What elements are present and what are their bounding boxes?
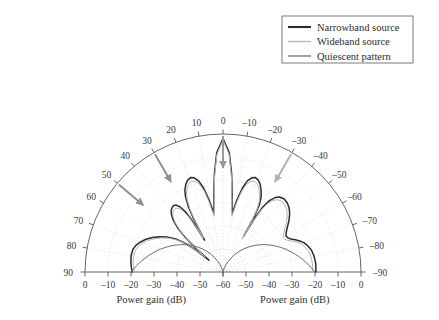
angle-tick-30 [152, 149, 154, 153]
angle-tick--70 [353, 223, 357, 225]
angle-tick-20 [174, 138, 176, 142]
angle-label--60: –60 [347, 192, 363, 202]
angle-label--50: –50 [331, 170, 347, 180]
angle-tick--30 [292, 149, 294, 153]
angle-tick-40 [131, 163, 134, 166]
radial-label-left-50: –50 [192, 280, 208, 290]
arrow-interferer-50 [119, 185, 144, 206]
angle-tick--20 [270, 138, 272, 142]
angle-label-90: 90 [64, 268, 74, 278]
polar-antenna-pattern-figure: 9080706050403020100–10–20–30–40–50–60–70… [0, 0, 439, 320]
grid-arc--10 [108, 157, 338, 272]
angle-tick--60 [343, 201, 347, 203]
axis-title-left: Power gain (dB) [117, 294, 187, 306]
angle-tick--80 [359, 247, 363, 248]
legend-label-2: Quiescent pattern [317, 51, 392, 62]
angle-label-20: 20 [166, 125, 176, 135]
polar-plot-canvas: 9080706050403020100–10–20–30–40–50–60–70… [0, 0, 439, 320]
angle-label-60: 60 [87, 192, 97, 202]
legend-label-1: Wideband source [317, 36, 390, 47]
angle-label--90: –90 [372, 268, 388, 278]
arrow-interferer-30 [155, 154, 171, 182]
radial-label-right-30: –30 [284, 280, 300, 290]
radial-label-right-10: –10 [330, 280, 346, 290]
angle-label-70: 70 [74, 216, 84, 226]
radial-label-left-20: –20 [123, 280, 139, 290]
angle-label-0: 0 [221, 116, 226, 126]
angle-tick-10 [198, 132, 199, 136]
radial-label-left-60: –60 [215, 280, 231, 290]
angle-label-50: 50 [102, 170, 112, 180]
angle-label--40: –40 [313, 151, 329, 161]
angle-label--10: –10 [241, 118, 257, 128]
angle-label--70: –70 [362, 216, 378, 226]
angle-tick--10 [247, 132, 248, 136]
angle-label-40: 40 [121, 151, 131, 161]
radial-label-right-20: –20 [307, 280, 323, 290]
angle-label--80: –80 [369, 241, 385, 251]
angle-label-30: 30 [142, 136, 152, 146]
radial-label-right-50: –50 [238, 280, 254, 290]
radial-label-left-10: –10 [100, 280, 116, 290]
legend[interactable]: Narrowband sourceWideband sourceQuiescen… [282, 16, 413, 63]
radial-label-right-40: –40 [261, 280, 277, 290]
angle-label-80: 80 [67, 241, 77, 251]
axis-title-right: Power gain (dB) [260, 294, 330, 306]
angle-tick-70 [89, 223, 93, 225]
angle-tick-50 [114, 180, 117, 183]
grid-spoke-70 [93, 225, 223, 272]
angle-label--30: –30 [291, 136, 307, 146]
radial-label-left-30: –30 [146, 280, 162, 290]
angle-label--20: –20 [267, 125, 283, 135]
angle-tick--50 [329, 180, 332, 183]
legend-label-0: Narrowband source [317, 22, 400, 33]
angle-tick--40 [312, 163, 315, 166]
angle-label-10: 10 [192, 118, 202, 128]
radial-label-left-40: –40 [169, 280, 185, 290]
angle-tick-80 [83, 247, 87, 248]
radial-label-right-0: 0 [359, 280, 364, 290]
angle-tick-60 [100, 201, 104, 203]
radial-label-left-0: 0 [83, 280, 88, 290]
